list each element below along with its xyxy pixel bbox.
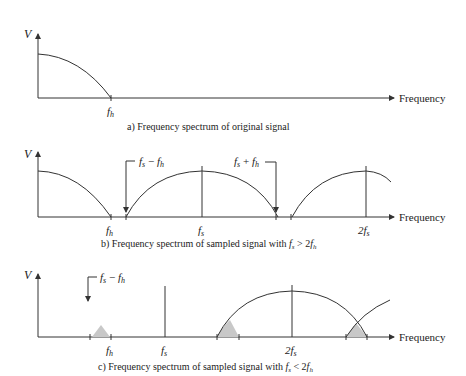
tick-label-fh: fh xyxy=(106,344,113,358)
tick-label-fs: fs xyxy=(161,344,167,358)
fs-minus-fh-label: fs − fh xyxy=(139,155,164,169)
tick-label-2fs: 2fs xyxy=(358,224,370,238)
y-axis-label: V xyxy=(24,27,33,41)
caption-a: a) Frequency spectrum of original signal xyxy=(127,121,290,133)
fs-minus-fh-arrow xyxy=(88,277,97,301)
x-axis-label: Frequency xyxy=(399,92,446,104)
baseband-spectrum-curve xyxy=(38,171,111,217)
panel-a: V Frequency fh a) Frequency spectrum of … xyxy=(24,27,446,133)
x-axis-label: Frequency xyxy=(399,211,446,223)
x-axis-label: Frequency xyxy=(399,331,446,343)
tick-label-fh: fh xyxy=(107,105,114,119)
tick-label-fh: fh xyxy=(106,224,113,238)
2fs-image-curve xyxy=(292,171,391,217)
fs-plus-fh-label: fs + fh xyxy=(234,155,259,169)
baseband-spectrum-curve xyxy=(38,54,111,98)
fs-minus-fh-label: fs − fh xyxy=(100,271,125,285)
alias-region-overlap xyxy=(346,323,367,337)
y-axis-label: V xyxy=(24,147,33,161)
caption-c: c) Frequency spectrum of sampled signal … xyxy=(98,361,313,374)
panel-c: V Frequency fs − fh fh fs 2fs c) Frequen… xyxy=(24,268,446,374)
sampling-spectrum-diagram: V Frequency fh a) Frequency spectrum of … xyxy=(0,0,466,376)
alias-region-left xyxy=(217,320,239,337)
y-axis-label: V xyxy=(24,268,33,282)
tick-label-2fs: 2fs xyxy=(285,344,297,358)
caption-b: b) Frequency spectrum of sampled signal … xyxy=(101,238,317,251)
alias-region-baseband xyxy=(92,325,110,337)
tick-label-fs: fs xyxy=(198,224,204,238)
panel-b: V Frequency fs − fh fs + fh fh fs 2fs b)… xyxy=(24,147,446,251)
